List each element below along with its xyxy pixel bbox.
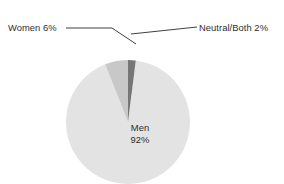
pie-chart-figure: Women 6% Neutral/Both 2% Men 92%	[0, 0, 284, 184]
slice-label-men-value: 92%	[108, 134, 172, 146]
slice-label-men-name: Men	[108, 122, 172, 134]
leader-line-women	[66, 28, 136, 44]
leader-line-neutral	[131, 27, 197, 34]
slice-callout-women: Women 6%	[8, 22, 57, 33]
slice-label-men: Men 92%	[108, 122, 172, 146]
slice-callout-neutral: Neutral/Both 2%	[199, 22, 268, 33]
